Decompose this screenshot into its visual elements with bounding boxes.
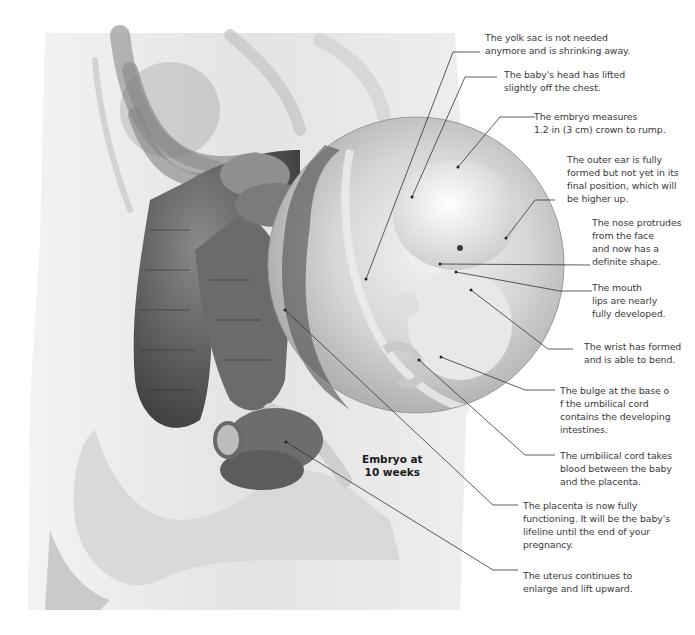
embryo-caption: Embryo at 10 weeks <box>362 453 423 478</box>
annotation-mouth: The mouthlips are nearly fully developed… <box>592 281 665 320</box>
annotation-size: The embryo measures1.2 in (3 cm) crown t… <box>534 110 666 136</box>
annotation-placenta: The placenta is now fullyfunctioning. It… <box>523 499 670 551</box>
annotation-nose: The nose protrudesfrom the face and now … <box>592 216 681 268</box>
annotation-outer-ear: The outer ear is fullyformed but not yet… <box>567 153 679 205</box>
annotation-head: The baby's head has liftedslightly off t… <box>504 68 625 94</box>
annotation-uterus: The uterus continues toenlarge and lift … <box>523 569 633 595</box>
embryo-inset <box>268 117 564 413</box>
caption-line-2: 10 weeks <box>362 466 423 479</box>
caption-line-1: Embryo at <box>362 453 423 466</box>
annotation-yolk-sac: The yolk sac is not neededanymore and is… <box>485 31 630 57</box>
annotation-wrist: The wrist has formedand is able to bend. <box>584 340 681 366</box>
anatomy-diagram: Embryo at 10 weeks The yolk sac is not n… <box>0 0 695 635</box>
annotation-umbilical-cord: The umbilical cord takesblood between th… <box>560 449 672 488</box>
annotation-bulge: The bulge at the base of the umbilical c… <box>560 384 671 436</box>
